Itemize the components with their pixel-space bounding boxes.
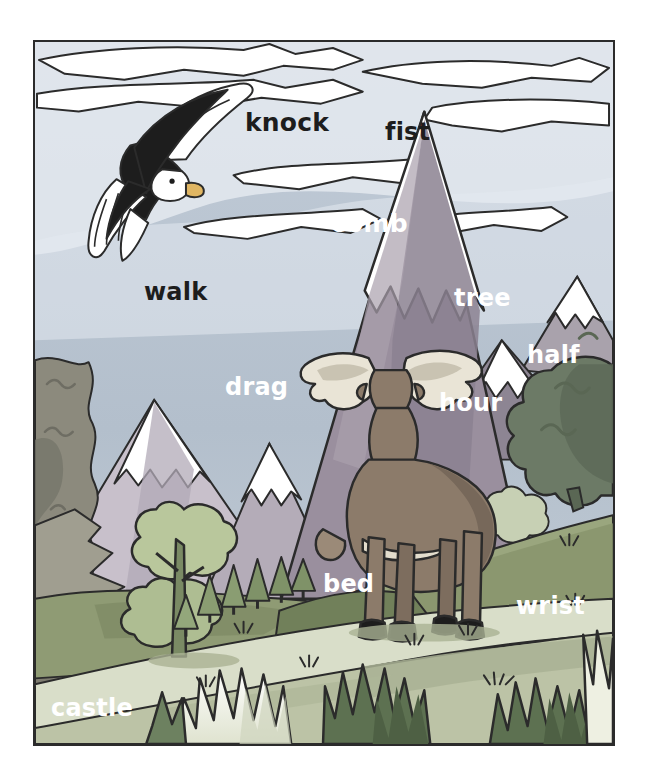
word-label-drag: drag (225, 375, 288, 399)
word-label-walk: walk (144, 280, 207, 304)
word-label-half: half (527, 343, 580, 367)
illustration-frame: knock fist comb walk tree half drag hour… (33, 40, 615, 746)
word-label-castle: castle (51, 696, 133, 720)
word-label-fist: fist (385, 120, 430, 144)
moose-neck (369, 408, 418, 462)
word-label-knock: knock (245, 110, 329, 135)
word-label-tree: tree (454, 286, 511, 310)
moose-head (370, 370, 412, 412)
eagle-head (151, 169, 189, 201)
word-label-bed: bed (323, 572, 374, 596)
word-label-wrist: wrist (516, 594, 585, 618)
page-root: knock fist comb walk tree half drag hour… (0, 0, 647, 783)
landscape-scene: knock fist comb walk tree half drag hour… (35, 42, 613, 744)
word-label-hour: hour (439, 391, 502, 415)
leg-back-right (438, 539, 456, 623)
leg-back-left (462, 531, 482, 626)
eagle-beak (186, 183, 204, 198)
tree-ground-shadow (148, 653, 239, 669)
scene-svg (35, 42, 613, 744)
leg-front-right (395, 543, 415, 629)
eagle-eye (169, 179, 174, 184)
word-label-comb: comb (331, 211, 408, 236)
